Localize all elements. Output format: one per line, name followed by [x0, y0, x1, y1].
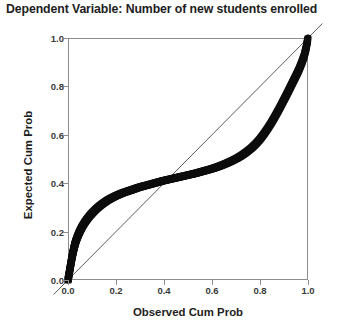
y-axis-tick-label: 0.8: [38, 81, 64, 92]
x-axis-tick-mark: [68, 280, 69, 285]
y-axis-tick-mark: [63, 183, 68, 184]
x-axis-tick-label: 0.8: [243, 285, 277, 296]
y-axis-tick-label: 0.6: [38, 129, 64, 140]
plot-area: [68, 38, 308, 280]
y-axis-tick-mark: [63, 232, 68, 233]
y-axis-ticks: 0.00.20.40.60.81.0: [36, 0, 64, 333]
pp-plot-chart: Dependent Variable: Number of new studen…: [0, 0, 338, 333]
y-axis-tick-label: 0.4: [38, 178, 64, 189]
y-axis-tick-mark: [63, 86, 68, 87]
y-axis-tick-label: 0.0: [38, 275, 64, 286]
x-axis-tick-label: 0.4: [147, 285, 181, 296]
y-axis-tick-mark: [63, 135, 68, 136]
x-axis-tick-mark: [116, 280, 117, 285]
x-axis-tick-mark: [212, 280, 213, 285]
x-axis-tick-label: 1.0: [291, 285, 325, 296]
y-axis-title: Expected Cum Prob: [22, 75, 34, 255]
y-axis-tick-label: 0.2: [38, 226, 64, 237]
x-axis-tick-label: 0.6: [195, 285, 229, 296]
x-axis-tick-mark: [260, 280, 261, 285]
x-axis-tick-mark: [308, 280, 309, 285]
reference-diagonal-line: [54, 23, 323, 294]
x-axis-tick-label: 0.0: [51, 285, 85, 296]
y-axis-tick-mark: [63, 38, 68, 39]
y-axis-tick-label: 1.0: [38, 33, 64, 44]
x-axis-tick-label: 0.2: [99, 285, 133, 296]
x-axis-tick-mark: [164, 280, 165, 285]
x-axis-title: Observed Cum Prob: [68, 306, 308, 318]
